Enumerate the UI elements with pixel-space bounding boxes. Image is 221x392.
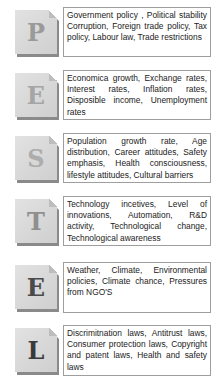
factor-letter: T bbox=[15, 199, 57, 243]
factor-letter: E bbox=[15, 265, 57, 309]
factor-letter: S bbox=[15, 136, 57, 180]
letter-tile: L bbox=[15, 328, 60, 376]
factor-letter: P bbox=[15, 10, 57, 54]
letter-tile: E bbox=[15, 73, 60, 121]
letter-tile: E bbox=[15, 265, 60, 313]
factor-description: Economica growth, Exchange rates, Intere… bbox=[63, 70, 211, 120]
factor-description: Government policy , Political stability … bbox=[63, 7, 211, 57]
letter-tile: S bbox=[15, 136, 60, 184]
factor-description: Discrimitnation laws, Antitrust laws, Co… bbox=[63, 325, 211, 376]
factor-letter: E bbox=[15, 73, 57, 117]
letter-tile: T bbox=[15, 199, 60, 247]
letter-tile: P bbox=[15, 10, 60, 58]
factor-description: Weather, Climate, Environmental policies… bbox=[63, 262, 211, 313]
factor-description: Population growth rate, Age distribution… bbox=[63, 133, 211, 183]
factor-letter: L bbox=[15, 328, 57, 372]
factor-description: Technology incetives, Level of innovatio… bbox=[63, 196, 211, 246]
